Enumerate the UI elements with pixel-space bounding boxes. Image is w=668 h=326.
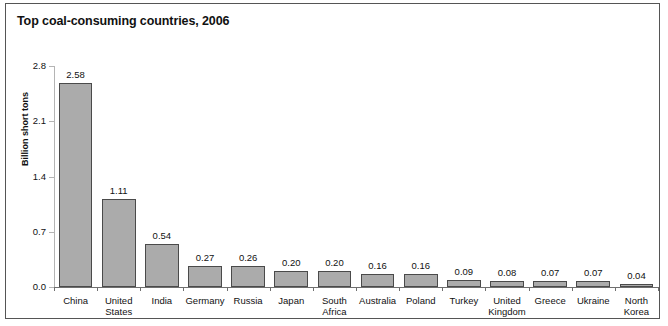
x-axis-tick <box>183 287 184 291</box>
figure-frame: Top coal-consuming countries, 2006 Billi… <box>5 3 660 319</box>
y-axis-tick-label: 2.1 <box>6 116 46 126</box>
x-axis-tick <box>442 287 443 291</box>
x-axis-tick <box>529 287 530 291</box>
x-axis-category-label: Australia <box>356 295 399 306</box>
bar <box>404 274 438 287</box>
x-axis-tick <box>227 287 228 291</box>
bar-value-label: 0.27 <box>183 253 227 263</box>
bar-value-label: 0.04 <box>614 271 658 281</box>
bar <box>102 199 136 287</box>
x-axis-tick <box>658 287 659 291</box>
x-axis-tick <box>140 287 141 291</box>
x-axis-category-label: United States <box>97 295 140 317</box>
bar <box>188 266 222 287</box>
y-axis-tick <box>49 232 55 233</box>
x-axis-tick <box>313 287 314 291</box>
x-axis-category-label: North Korea <box>615 295 658 317</box>
y-axis-tick <box>49 177 55 178</box>
bar <box>318 271 352 287</box>
bar-chart-plot-area: Billion short tons 0.00.71.42.12.82.58Ch… <box>6 4 659 318</box>
bar <box>576 281 610 287</box>
y-axis-tick-label: 2.8 <box>6 61 46 71</box>
bar <box>231 266 265 287</box>
x-axis-tick <box>399 287 400 291</box>
x-axis-category-label: Poland <box>399 295 442 306</box>
y-axis-tick-label: 1.4 <box>6 172 46 182</box>
bar-value-label: 0.20 <box>312 258 356 268</box>
y-axis-tick-label-text: 1.4 <box>6 172 46 182</box>
bar <box>533 281 567 287</box>
bar <box>59 83 93 287</box>
x-axis-tick <box>356 287 357 291</box>
bar-value-label: 0.26 <box>226 253 270 263</box>
y-axis-tick-label-text: 0.7 <box>6 227 46 237</box>
x-axis-tick <box>270 287 271 291</box>
x-axis-category-label: Greece <box>529 295 572 306</box>
x-axis-category-label: China <box>54 295 97 306</box>
bar-value-label: 0.08 <box>485 268 529 278</box>
bar-value-label: 0.16 <box>356 261 400 271</box>
y-axis-tick <box>49 66 55 67</box>
y-axis-tick-label-text: 0.0 <box>6 282 46 292</box>
x-axis-tick <box>485 287 486 291</box>
x-axis-category-label: Turkey <box>442 295 485 306</box>
x-axis-tick <box>615 287 616 291</box>
x-axis-category-label: South Africa <box>313 295 356 317</box>
y-axis-tick-label: 0.7 <box>6 227 46 237</box>
bar <box>361 274 395 287</box>
x-axis-tick <box>572 287 573 291</box>
y-axis-title: Billion short tons <box>20 89 30 169</box>
y-axis-tick-label-text: 2.1 <box>6 116 46 126</box>
x-axis-tick <box>97 287 98 291</box>
bar-value-label: 0.54 <box>140 231 184 241</box>
x-axis-category-label: United Kingdom <box>485 295 528 317</box>
y-axis-tick-label-text: 2.8 <box>6 61 46 71</box>
y-axis-tick-label: 0.0 <box>6 282 46 292</box>
x-axis-category-label: Russia <box>227 295 270 306</box>
bar-value-label: 2.58 <box>54 70 98 80</box>
bar <box>274 271 308 287</box>
x-axis-category-label: India <box>140 295 183 306</box>
bar <box>490 281 524 287</box>
bar-value-label: 1.11 <box>97 186 141 196</box>
bar-value-label: 0.09 <box>442 267 486 277</box>
bar <box>447 280 481 287</box>
y-axis-tick <box>49 121 55 122</box>
bar-value-label: 0.20 <box>269 258 313 268</box>
bar-value-label: 0.16 <box>399 261 443 271</box>
x-axis-category-label: Ukraine <box>572 295 615 306</box>
x-axis-tick <box>54 287 55 291</box>
x-axis-category-label: Japan <box>270 295 313 306</box>
bar-value-label: 0.07 <box>571 268 615 278</box>
bar <box>145 244 179 287</box>
bar <box>620 284 654 287</box>
bar-value-label: 0.07 <box>528 268 572 278</box>
x-axis-category-label: Germany <box>183 295 226 306</box>
